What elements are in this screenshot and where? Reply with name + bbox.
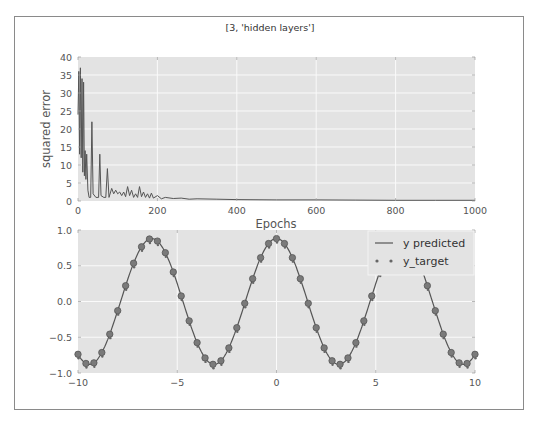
figure-title: [3, 'hidden layers'] <box>225 22 314 33</box>
target-marker <box>273 235 279 241</box>
target-marker-dot <box>125 288 127 290</box>
x-tick-label: 5 <box>373 377 379 388</box>
x-tick-label: 400 <box>228 205 246 216</box>
target-marker <box>99 349 105 355</box>
target-marker-dot <box>220 364 222 366</box>
target-marker <box>218 358 224 364</box>
x-tick-label: 0 <box>273 377 279 388</box>
x-tick-label: 10 <box>469 377 481 388</box>
target-marker <box>369 293 375 299</box>
y-tick-label: 25 <box>60 106 72 117</box>
target-marker <box>249 276 255 282</box>
y-tick-label: 10 <box>60 160 72 171</box>
target-marker-dot <box>458 366 460 368</box>
target-marker-dot <box>212 367 214 369</box>
target-marker <box>91 360 97 366</box>
target-marker <box>210 361 216 367</box>
target-marker <box>130 260 136 266</box>
target-marker-dot <box>371 299 373 301</box>
y-tick-label: 20 <box>60 124 72 135</box>
target-marker <box>75 351 81 357</box>
target-marker-dot <box>427 288 429 290</box>
target-marker-dot <box>101 355 103 357</box>
y-tick-label: 0 <box>66 196 72 207</box>
target-marker-dot <box>141 250 143 252</box>
target-marker <box>178 293 184 299</box>
target-marker <box>138 244 144 250</box>
target-marker-dot <box>443 337 445 339</box>
target-marker-dot <box>252 282 254 284</box>
target-marker-dot <box>284 246 286 248</box>
y-tick-label: 5 <box>66 178 72 189</box>
y-tick-label: −1.0 <box>49 368 72 379</box>
target-marker-dot <box>300 282 302 284</box>
target-marker-dot <box>363 324 365 326</box>
target-marker <box>154 238 160 244</box>
target-marker <box>226 345 232 351</box>
target-marker <box>345 355 351 361</box>
target-marker-dot <box>109 337 111 339</box>
target-marker-dot <box>165 256 167 258</box>
x-tick-label: 1000 <box>463 205 487 216</box>
y-tick-label: 15 <box>60 142 72 153</box>
y-tick-label: 35 <box>60 70 72 81</box>
target-marker-dot <box>323 351 325 353</box>
x-tick-label: 0 <box>75 205 81 216</box>
target-marker-dot <box>276 241 278 243</box>
target-marker <box>242 300 248 306</box>
x-tick-label: 800 <box>387 205 405 216</box>
target-marker-dot <box>149 242 151 244</box>
y-tick-label: 0.0 <box>57 296 72 307</box>
target-marker <box>361 318 367 324</box>
target-marker-dot <box>157 244 159 246</box>
target-marker <box>424 282 430 288</box>
target-marker <box>122 282 128 288</box>
target-marker-dot <box>228 351 230 353</box>
legend-target-label: y_target <box>403 255 449 268</box>
target-marker <box>353 339 359 345</box>
target-marker-dot <box>347 361 349 363</box>
target-marker-dot <box>188 324 190 326</box>
target-marker-dot <box>204 361 206 363</box>
x-tick-label: 200 <box>148 205 166 216</box>
target-marker-dot <box>268 246 270 248</box>
legend-marker-icon <box>375 259 378 262</box>
target-marker <box>289 254 295 260</box>
y-tick-label: 30 <box>60 88 72 99</box>
x-tick-label: −5 <box>170 377 184 388</box>
y-tick-label: 1.0 <box>57 225 72 236</box>
target-marker-dot <box>339 367 341 369</box>
target-marker-dot <box>133 266 135 268</box>
target-marker <box>107 331 113 337</box>
target-marker <box>464 360 470 366</box>
prediction-chart: −10−50510 −1.0−0.50.00.51.0 y predicted … <box>49 225 481 389</box>
target-marker <box>313 324 319 330</box>
target-marker <box>194 339 200 345</box>
target-marker <box>440 331 446 337</box>
y-axis-label: squared error <box>39 90 53 168</box>
target-marker-dot <box>292 260 294 262</box>
target-marker <box>297 276 303 282</box>
target-marker <box>202 355 208 361</box>
target-marker <box>305 300 311 306</box>
legend: y predicted y_target <box>368 231 474 275</box>
target-marker <box>265 240 271 246</box>
target-marker <box>162 250 168 256</box>
target-marker-dot <box>316 330 318 332</box>
target-marker <box>329 358 335 364</box>
target-marker-dot <box>244 306 246 308</box>
target-marker-dot <box>435 313 437 315</box>
x-tick-label: −10 <box>68 377 88 388</box>
target-marker <box>186 318 192 324</box>
target-marker <box>448 349 454 355</box>
target-marker <box>321 345 327 351</box>
target-marker <box>472 351 478 357</box>
target-marker <box>170 269 176 275</box>
target-marker-dot <box>77 357 79 359</box>
target-marker <box>432 307 438 313</box>
target-marker <box>257 254 263 260</box>
y-tick-label: 40 <box>60 52 72 63</box>
y-tick-label: 0.5 <box>57 260 72 271</box>
target-marker <box>83 360 89 366</box>
x-tick-label: 600 <box>307 205 325 216</box>
